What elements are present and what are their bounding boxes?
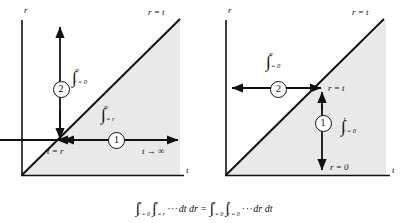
integration-order-figure: r t r = t t = r t → ∞ ∫∞t = r ∫∞r = 0 1 … — [0, 0, 408, 223]
eq-lhs-integrand: ··· — [167, 203, 179, 214]
eq-rhs-inner-lower: r = 0 — [227, 211, 239, 217]
right-inner-integral-expression: ∫tr = 0 — [341, 117, 359, 135]
integration-order-equation: ∫∞r = 0∫∞t = r···dt dr=∫∞t = 0∫tr = 0···… — [0, 200, 408, 217]
eq-lhs-inner-limits: ∞t = r — [154, 203, 165, 215]
eq-lhs-inner-lower: t = r — [154, 211, 165, 217]
left-inner-upper-limit: ∞ — [104, 104, 116, 111]
diagram-canvas — [0, 0, 408, 223]
left-order-badge-two: 2 — [53, 81, 70, 98]
eq-rhs-inner-upper: t — [227, 200, 239, 206]
right-inner-lower-limit: r = 0 — [343, 128, 356, 135]
right-outer-integral-expression: ∫∞t = 0 — [266, 52, 283, 70]
right-bottom-label: r = 0 — [330, 163, 349, 172]
right-outer-upper-limit: ∞ — [269, 51, 282, 58]
eq-rhs-integrand: ··· — [242, 203, 254, 214]
left-inner-lower-limit: t = r — [103, 116, 115, 123]
eq-rhs-outer-upper: ∞ — [212, 200, 224, 206]
eq-lhs-outer-limits: ∞r = 0 — [138, 203, 150, 215]
right-inner-upper-limit: t — [344, 116, 357, 123]
eq-rhs-outer-lower: t = 0 — [212, 211, 224, 217]
right-order-badge-two: 2 — [270, 81, 287, 98]
left-diagonal-label: r = t — [148, 8, 165, 17]
right-y-axis-label: r — [228, 6, 232, 15]
right-panel-group — [225, 19, 390, 176]
eq-lhs-outer-lower: r = 0 — [138, 211, 150, 217]
left-inner-integral-expression: ∫∞t = r — [101, 105, 118, 123]
left-vertex-label: t = r — [47, 147, 64, 156]
eq-relation: = — [198, 203, 210, 214]
right-outer-limits: ∞t = 0 — [268, 55, 281, 68]
left-limit-label: t → ∞ — [142, 147, 164, 156]
left-y-axis-label: r — [24, 6, 28, 15]
right-x-axis-label: t — [392, 166, 395, 175]
left-inner-limits: ∞t = r — [103, 108, 115, 121]
right-order-badge-one: 1 — [315, 115, 332, 132]
right-inner-limits: tr = 0 — [343, 120, 356, 133]
left-x-axis-label: t — [186, 166, 189, 175]
eq-rhs-inner-limits: tr = 0 — [227, 203, 239, 215]
left-outer-upper-limit: ∞ — [75, 67, 88, 74]
right-diagonal-label: r = t — [352, 8, 369, 17]
eq-rhs-outer-limits: ∞t = 0 — [212, 203, 224, 215]
eq-lhs-differentials: dt dr — [179, 203, 198, 214]
left-order-badge-one: 1 — [108, 132, 125, 149]
right-vertex-label: r = t — [328, 84, 345, 93]
left-outer-lower-limit: r = 0 — [74, 79, 87, 86]
right-outer-lower-limit: t = 0 — [268, 63, 281, 70]
left-outer-integral-expression: ∫∞r = 0 — [72, 68, 90, 86]
left-outer-limits: ∞r = 0 — [74, 71, 87, 84]
eq-lhs-outer-upper: ∞ — [138, 200, 150, 206]
eq-rhs-differentials: dr dt — [253, 203, 272, 214]
eq-lhs-inner-upper: ∞ — [154, 200, 165, 206]
